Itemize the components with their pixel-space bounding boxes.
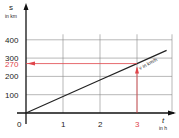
y-axis-unit: in km (5, 13, 17, 19)
y-tick-label: 200 (5, 72, 19, 81)
x-tick-label: 0 (17, 120, 22, 129)
x-tick-label: 2 (98, 120, 103, 129)
series-line (26, 50, 167, 113)
y-axis-label: s (9, 3, 13, 12)
x-axis-label: t (162, 116, 165, 125)
x-tick-label: 1 (61, 120, 66, 129)
grid-lines (26, 34, 172, 113)
distance-time-chart: 1002003004000123 270 s in km t in h v in… (0, 0, 179, 138)
x-tick-label: 3 (135, 120, 140, 129)
data-line (26, 50, 167, 113)
y-tick-label: 400 (5, 36, 19, 45)
red-arrow-left-icon (27, 62, 35, 66)
highlight-annotations: 270 (5, 60, 139, 113)
highlight-y-label: 270 (5, 60, 19, 69)
axes: 1002003004000123 (5, 3, 176, 129)
y-tick-label: 100 (5, 91, 19, 100)
y-axis-arrow-icon (24, 3, 29, 10)
x-axis-unit: in h (159, 125, 167, 131)
